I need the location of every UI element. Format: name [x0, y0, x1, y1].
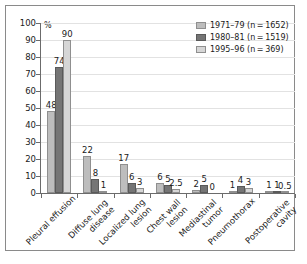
bar-group: 2281 [83, 23, 108, 193]
bar[interactable] [281, 191, 289, 193]
bar[interactable] [172, 189, 180, 193]
bar[interactable] [55, 67, 63, 193]
y-axis-labels: 0102030405060708090100 [6, 6, 36, 216]
bar-value-label: 90 [56, 30, 78, 39]
bar[interactable] [192, 190, 200, 193]
y-tick-label: 60 [10, 87, 36, 95]
bar[interactable] [63, 40, 71, 193]
y-tick-mark [36, 125, 41, 126]
bar-value-label: 22 [76, 146, 98, 155]
bar[interactable] [273, 191, 281, 193]
bar-value-label: 8 [84, 169, 106, 178]
bar[interactable] [156, 183, 164, 193]
bar[interactable] [245, 188, 253, 193]
bar-value-label: 2.5 [165, 179, 187, 188]
legend-label: 1971–79 (n = 1652) [210, 21, 289, 30]
bar-value-label: 1 [92, 181, 114, 190]
x-tick-mark [259, 194, 260, 198]
y-tick-mark [36, 40, 41, 41]
x-tick-mark [41, 194, 42, 198]
y-tick-mark [36, 74, 41, 75]
y-tick-mark [36, 91, 41, 92]
y-tick-mark [36, 159, 41, 160]
y-tick-label: 10 [10, 172, 36, 180]
legend-swatch-icon [196, 34, 206, 41]
y-tick-mark [36, 23, 41, 24]
x-tick-mark [295, 194, 296, 198]
y-tick-label: 90 [10, 36, 36, 44]
y-tick-mark [36, 108, 41, 109]
legend-item[interactable]: 1980–81 (n = 1519) [196, 32, 288, 43]
chart-frame: 0102030405060708090100 % 487490228117636… [5, 5, 295, 251]
y-tick-label: 20 [10, 155, 36, 163]
x-tick-mark [77, 194, 78, 198]
x-tick-mark [186, 194, 187, 198]
legend-swatch-icon [196, 46, 206, 53]
y-tick-label: 80 [10, 53, 36, 61]
y-tick-label: 100 [10, 19, 36, 27]
bar[interactable] [237, 186, 245, 193]
legend-item[interactable]: 1971–79 (n = 1652) [196, 20, 288, 31]
bar[interactable] [47, 111, 55, 193]
bar-value-label: 17 [113, 154, 135, 163]
x-tick-mark [114, 194, 115, 198]
y-tick-mark [36, 176, 41, 177]
y-tick-label: 70 [10, 70, 36, 78]
chart-legend: 1971–79 (n = 1652)1980–81 (n = 1519)1995… [196, 20, 288, 56]
bar[interactable] [136, 188, 144, 193]
bar-group: 1763 [119, 23, 144, 193]
legend-label: 1980–81 (n = 1519) [210, 33, 289, 42]
x-tick-mark [150, 194, 151, 198]
bar-group: 652.5 [156, 23, 181, 193]
y-tick-mark [36, 57, 41, 58]
y-tick-label: 50 [10, 104, 36, 112]
bar-value-label: 0 [201, 183, 223, 192]
bar[interactable] [229, 191, 237, 193]
y-tick-label: 40 [10, 121, 36, 129]
y-tick-mark [36, 142, 41, 143]
legend-swatch-icon [196, 22, 206, 29]
legend-label: 1995–96 (n = 369) [210, 45, 284, 54]
y-tick-label: 30 [10, 138, 36, 146]
bar-value-label: 3 [238, 178, 260, 187]
legend-item[interactable]: 1995–96 (n = 369) [196, 44, 288, 55]
bar-group: 487490 [47, 23, 72, 193]
bar-value-label: 0.5 [274, 182, 296, 191]
bar[interactable] [99, 191, 107, 193]
x-tick-mark [222, 194, 223, 198]
y-tick-label: 0 [10, 189, 36, 197]
bar-value-label: 3 [129, 178, 151, 187]
bar[interactable] [265, 191, 273, 193]
